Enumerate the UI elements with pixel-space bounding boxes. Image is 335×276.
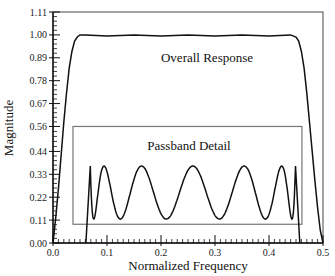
annotation-passband-detail: Passband Detail (147, 138, 231, 153)
y-tick-label: 0.89 (30, 52, 48, 63)
y-tick-label: 1.11 (30, 7, 47, 18)
y-tick-label: 0.78 (30, 75, 48, 86)
y-tick-label: 0.11 (30, 215, 47, 226)
y-axis-title: Magnitude (1, 100, 16, 157)
y-tick-label: 0.67 (30, 98, 48, 109)
y-tick-label: 0.44 (30, 146, 48, 157)
x-tick-label: 0.1 (101, 247, 114, 258)
y-tick-label: 1.00 (30, 29, 48, 40)
y-tick-label: 0.33 (30, 169, 48, 180)
x-tick-label: 0.3 (209, 247, 222, 258)
y-tick-label: 0.00 (30, 238, 48, 249)
x-axis-title: Normalized Frequency (128, 258, 248, 273)
chart: 0.000.110.220.330.440.560.670.780.891.00… (0, 0, 335, 276)
x-tick-label: 0.0 (47, 247, 60, 258)
x-tick-label: 0.5 (317, 247, 330, 258)
passband-detail-line (86, 166, 300, 243)
y-tick-label: 0.22 (30, 192, 48, 203)
x-tick-label: 0.4 (263, 247, 276, 258)
x-tick-label: 0.2 (155, 247, 168, 258)
y-tick-label: 0.56 (30, 121, 48, 132)
plot-frame (53, 12, 323, 243)
annotation-overall-response: Overall Response (161, 50, 253, 65)
